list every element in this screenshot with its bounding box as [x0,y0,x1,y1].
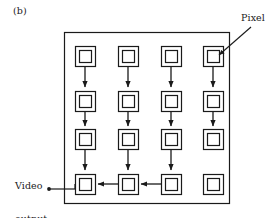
video-output-annotation-label: Video output [15,158,47,218]
pixel-r2c1 [76,92,96,112]
pixel-r2c4 [204,92,224,112]
pixel-r3c4 [204,130,224,150]
pixel-r1c1 [76,47,96,67]
pixel-r2c3 [162,92,182,112]
video-output-label-line1: Video [15,180,47,191]
pixel-r4c1 [76,175,96,195]
figure-panel-b: (b) Pixel Video output [0,0,277,218]
pixel-r4c3 [162,175,182,195]
pixel-r1c4 [204,47,224,67]
pixel-r1c2 [119,47,139,67]
pixel-r4c2 [119,175,139,195]
video-output-label-line2: output [15,213,47,218]
pixel-r1c3 [162,47,182,67]
pixel-r3c3 [162,130,182,150]
video-output-node [47,187,51,191]
pixel-r3c2 [119,130,139,150]
pixel-annotation-label: Pixel [241,12,265,23]
pixel-r3c1 [76,130,96,150]
pixel-r2c2 [119,92,139,112]
panel-label: (b) [13,5,27,16]
pixel-r4c4 [204,175,224,195]
